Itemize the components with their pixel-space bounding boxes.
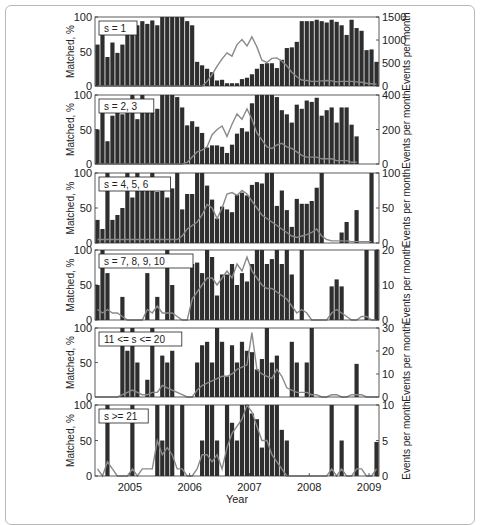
x-tick-label: 2005 [118, 481, 142, 493]
bar [255, 250, 259, 320]
bar [340, 107, 344, 164]
bar [190, 194, 194, 243]
bar [185, 194, 189, 243]
bar [135, 119, 139, 164]
bar [325, 23, 329, 86]
bar [110, 43, 114, 86]
bar [255, 182, 259, 243]
bar [270, 95, 274, 164]
right-tick-label: 20 [382, 345, 394, 357]
bar [205, 342, 209, 397]
bar [354, 136, 358, 164]
panel-legend-label: s = 2, 3 [104, 101, 138, 112]
bar [95, 45, 99, 86]
bar [330, 405, 334, 476]
bar [210, 405, 214, 476]
right-tick-label: 30 [382, 322, 394, 334]
bar [255, 369, 259, 397]
x-axis-label: Year [226, 493, 249, 505]
bar [175, 173, 179, 243]
bar [145, 24, 149, 86]
panel-legend-label: s >= 21 [104, 411, 138, 422]
bar [250, 185, 254, 243]
right-axis-label: Events per month [401, 401, 412, 479]
bar [240, 128, 244, 164]
bar [170, 95, 174, 164]
bar [195, 173, 199, 243]
bar [280, 264, 284, 320]
bar [215, 296, 219, 321]
bar [290, 123, 294, 164]
bar [300, 21, 304, 86]
bar [160, 185, 164, 243]
bar [190, 264, 194, 320]
bar [270, 405, 274, 476]
bar [285, 210, 289, 243]
bar [310, 201, 314, 243]
bar [190, 25, 194, 86]
right-tick-label: 200 [382, 124, 400, 136]
panel-legend-label: s = 7, 8, 9, 10 [104, 256, 165, 267]
bar [374, 62, 378, 86]
bar [130, 198, 134, 244]
bar [354, 405, 358, 476]
bar [240, 193, 244, 243]
bar [245, 132, 249, 164]
bar [354, 28, 358, 86]
bar [340, 25, 344, 86]
bar [100, 105, 104, 164]
bar [235, 441, 239, 477]
bar [225, 275, 229, 321]
panel-4: 05010001020Matched, %Events per months =… [65, 244, 412, 326]
left-tick-label: 50 [80, 46, 92, 58]
bar [100, 229, 104, 243]
bar [175, 17, 179, 86]
bar [245, 282, 249, 321]
bar [215, 219, 219, 244]
bar [345, 35, 349, 86]
bar [100, 31, 104, 86]
left-axis-label: Matched, % [65, 25, 76, 78]
bar [160, 17, 164, 86]
right-axis-label: Events per month [401, 90, 412, 168]
right-axis-label: Events per month [401, 169, 412, 247]
x-tick-label: 2006 [177, 481, 201, 493]
bar [235, 134, 239, 164]
bar [235, 195, 239, 243]
bar [240, 79, 244, 86]
left-tick-label: 50 [80, 124, 92, 136]
bar [140, 188, 144, 243]
bar [230, 345, 234, 397]
bar [364, 250, 368, 320]
bar [195, 62, 199, 86]
bar [280, 110, 284, 164]
bar [260, 95, 264, 164]
bar [200, 173, 204, 243]
bar [115, 53, 119, 86]
bar [230, 83, 234, 86]
bar [354, 364, 358, 397]
bar [250, 103, 254, 164]
bar [265, 328, 269, 397]
x-tick-label: 2007 [237, 481, 261, 493]
bar [305, 21, 309, 86]
bar [220, 342, 224, 397]
panel-1: 050100050010001500Matched, %Events per m… [65, 11, 412, 92]
bar [280, 60, 284, 86]
right-axis-label: Events per month [401, 12, 412, 90]
bar [245, 78, 249, 86]
bar [350, 125, 354, 164]
bar [265, 95, 269, 164]
bar [255, 69, 259, 86]
bar [225, 153, 229, 164]
bar [205, 405, 209, 476]
bar [235, 363, 239, 398]
bar [320, 116, 324, 164]
bar [205, 147, 209, 164]
bar [290, 275, 294, 321]
left-tick-label: 100 [74, 322, 92, 334]
panel-2: 0501000200400Matched, %Events per months… [65, 89, 412, 170]
bar [325, 110, 329, 164]
bar [155, 109, 159, 164]
